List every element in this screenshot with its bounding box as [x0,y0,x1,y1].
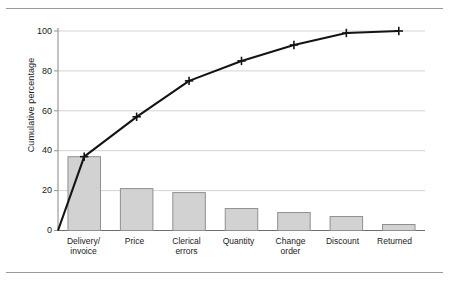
bar-returned [383,225,416,231]
cumulative-markers [80,27,403,161]
bar-quantity [225,209,258,231]
gridlines [58,31,425,191]
bar-discount [330,217,363,231]
cumulative-line [58,31,399,231]
bar-delivery-invoice [68,157,101,231]
plot-area: Cumulative percentage 0 20 40 60 80 100 … [0,0,449,286]
bar-change-order [278,213,311,231]
bar-clerical-errors [173,193,206,231]
chart-canvas [0,0,449,286]
bar-price [120,189,153,231]
pareto-chart-figure: Cumulative percentage 0 20 40 60 80 100 … [0,0,449,286]
bars [68,157,415,231]
